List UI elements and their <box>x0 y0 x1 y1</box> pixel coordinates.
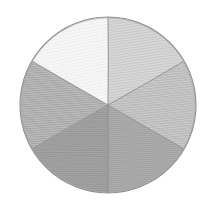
drawing-canvas: Shaded Circle Value Study circle divided… <box>0 0 214 208</box>
shaded-circle-figure: Shaded Circle Value Study circle divided… <box>0 0 214 208</box>
